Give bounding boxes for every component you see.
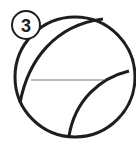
ball-diagram: 3 xyxy=(0,0,136,141)
step-badge: 3 xyxy=(12,11,40,39)
step-number: 3 xyxy=(21,16,31,36)
